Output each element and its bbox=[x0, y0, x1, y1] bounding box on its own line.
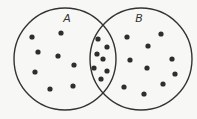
element-dot bbox=[58, 30, 63, 35]
venn-diagram: A B bbox=[0, 0, 197, 119]
region-a-only-dots bbox=[29, 30, 76, 91]
element-dot bbox=[121, 84, 126, 89]
element-dot bbox=[32, 69, 37, 74]
element-dot bbox=[70, 83, 75, 88]
set-b-label: B bbox=[135, 12, 143, 25]
element-dot bbox=[71, 62, 76, 67]
element-dot bbox=[94, 51, 99, 56]
region-intersection-dots bbox=[91, 36, 109, 81]
element-dot bbox=[124, 34, 129, 39]
element-dot bbox=[29, 34, 34, 39]
element-dot bbox=[100, 56, 105, 61]
element-dot bbox=[104, 44, 109, 49]
element-dot bbox=[127, 57, 132, 62]
element-dot bbox=[55, 53, 60, 58]
element-dot bbox=[98, 76, 103, 81]
element-dot bbox=[172, 71, 177, 76]
element-dot bbox=[95, 36, 100, 41]
element-dot bbox=[158, 31, 163, 36]
element-dot bbox=[104, 68, 109, 73]
set-a-label: A bbox=[62, 12, 71, 25]
element-dot bbox=[160, 81, 165, 86]
element-dot bbox=[91, 65, 96, 70]
element-dot bbox=[169, 56, 174, 61]
region-b-only-dots bbox=[121, 31, 177, 96]
element-dot bbox=[141, 91, 146, 96]
element-dot bbox=[144, 65, 149, 70]
element-dot bbox=[47, 86, 52, 91]
element-dot bbox=[35, 49, 40, 54]
element-dot bbox=[145, 43, 150, 48]
